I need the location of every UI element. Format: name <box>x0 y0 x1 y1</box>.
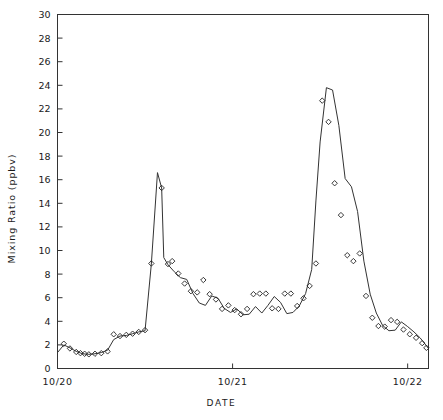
y-tick-label: 14 <box>38 198 50 209</box>
x-tick-label: 10/20 <box>43 376 73 387</box>
x-axis-label: DATE <box>0 398 443 408</box>
y-axis-label-container: Mixing Ratio (ppbv) <box>2 118 22 298</box>
y-axis-label: Mixing Ratio (ppbv) <box>7 153 18 263</box>
y-tick-label: 20 <box>38 127 50 138</box>
y-tick-label: 2 <box>44 339 50 350</box>
y-tick-label: 26 <box>38 56 50 67</box>
y-tick-label: 28 <box>38 33 50 44</box>
mixing-ratio-time-series-chart: 02468101214161820222426283010/2010/2110/… <box>0 0 443 420</box>
y-tick-label: 12 <box>38 221 50 232</box>
y-tick-label: 18 <box>38 151 50 162</box>
x-tick-label: 10/22 <box>393 376 423 387</box>
y-tick-label: 4 <box>44 316 50 327</box>
y-tick-label: 16 <box>38 174 50 185</box>
figure: 02468101214161820222426283010/2010/2110/… <box>0 0 443 420</box>
y-tick-label: 6 <box>44 292 50 303</box>
y-tick-label: 0 <box>44 363 50 374</box>
chart-background <box>0 0 443 420</box>
y-tick-label: 30 <box>38 9 50 20</box>
x-tick-label: 10/21 <box>218 376 248 387</box>
y-tick-label: 24 <box>38 80 50 91</box>
y-tick-label: 22 <box>38 103 50 114</box>
y-tick-label: 8 <box>44 269 50 280</box>
y-tick-label: 10 <box>38 245 50 256</box>
